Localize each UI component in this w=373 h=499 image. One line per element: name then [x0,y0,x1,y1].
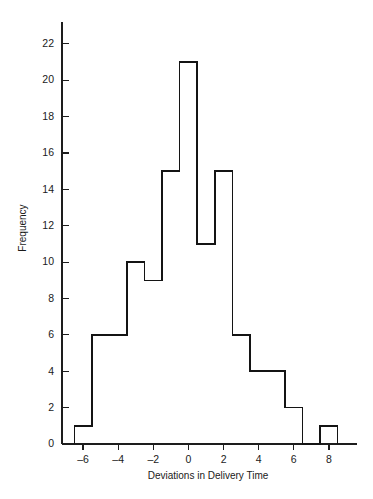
y-tick-label: 14 [42,183,54,195]
histogram-figure: 0246810121416182022 –6–4–202468 Deviatio… [0,0,373,499]
y-tick-label: 10 [42,255,54,267]
bar-group [74,62,337,444]
y-tick-label: 2 [48,401,54,413]
x-tick-label: –2 [147,453,159,465]
y-tick-label: 4 [48,365,54,377]
x-tick-label: 8 [326,453,332,465]
y-tick-label: 16 [42,146,54,158]
y-tick-group: 0246810121416182022 [42,37,69,449]
y-tick-label: 22 [42,37,54,49]
y-tick-label: 18 [42,110,54,122]
y-axis-title: Frequency [17,204,28,251]
x-tick-label: 6 [291,453,297,465]
x-tick-label: 4 [256,453,262,465]
x-tick-label: 0 [186,453,192,465]
y-tick-label: 6 [48,328,54,340]
x-tick-group: –6–4–202468 [77,444,332,465]
histogram-outline [74,62,337,444]
x-tick-label: –6 [77,453,89,465]
y-tick-label: 8 [48,292,54,304]
y-tick-label: 0 [48,437,54,449]
y-tick-label: 12 [42,219,54,231]
x-tick-label: 2 [221,453,227,465]
x-tick-label: –4 [112,453,124,465]
x-axis-title: Deviations in Delivery Time [148,470,269,481]
y-tick-label: 20 [42,73,54,85]
histogram-chart: 0246810121416182022 –6–4–202468 Deviatio… [0,0,373,499]
